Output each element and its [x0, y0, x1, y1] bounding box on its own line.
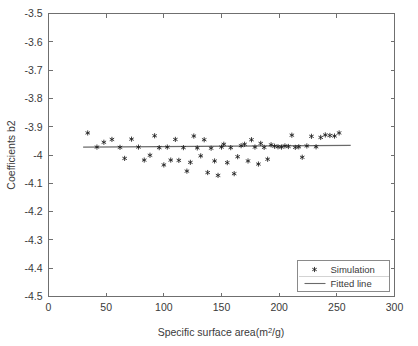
data-point-marker — [162, 163, 166, 167]
data-point-marker — [250, 138, 254, 142]
y-tick-label: -3.7 — [24, 64, 42, 76]
y-tick-label: -4.1 — [24, 177, 42, 189]
y-axis-title: Coefficients b2 — [5, 120, 17, 189]
data-point-marker — [185, 169, 189, 173]
fitted-line — [83, 145, 351, 147]
y-tick-label: -4.5 — [24, 290, 42, 302]
legend: SimulationFitted line — [298, 261, 390, 292]
x-tick-label: 200 — [270, 301, 288, 313]
data-points — [86, 131, 341, 178]
data-point-marker — [236, 155, 240, 159]
data-point-marker — [177, 158, 181, 162]
plot-frame — [49, 14, 395, 297]
data-point-marker — [86, 131, 90, 135]
data-point-marker — [188, 160, 192, 164]
data-point-marker — [199, 154, 203, 158]
data-point-marker — [259, 141, 263, 145]
data-point-marker — [333, 134, 337, 138]
data-point-marker — [123, 156, 127, 160]
x-tick-label: 250 — [328, 301, 346, 313]
data-point-marker — [257, 162, 261, 166]
data-point-marker — [328, 133, 332, 137]
data-point-marker — [206, 170, 210, 174]
data-point-marker — [323, 133, 327, 137]
data-point-marker — [337, 131, 341, 135]
y-tick-label: -4.2 — [24, 205, 42, 217]
data-point-marker — [220, 145, 224, 149]
data-point-marker — [148, 153, 152, 157]
y-tick-label: -3.8 — [24, 92, 42, 104]
data-point-marker — [290, 133, 294, 137]
x-tick-label: 100 — [155, 301, 173, 313]
x-tick-label: 150 — [213, 301, 231, 313]
data-point-marker — [246, 159, 250, 163]
x-axis-title: Specific surface area(m2/g) — [158, 326, 285, 339]
data-point-marker — [232, 171, 236, 175]
data-point-marker — [319, 135, 323, 139]
data-point-marker — [169, 158, 173, 162]
data-point-marker — [102, 140, 106, 144]
y-tick-label: -3.5 — [24, 7, 42, 19]
data-point-marker — [216, 173, 220, 177]
y-tick-label: -4.4 — [24, 262, 42, 274]
data-point-marker — [110, 137, 114, 141]
x-tick-label: 0 — [46, 301, 52, 313]
data-point-marker — [192, 134, 196, 138]
scatter-plot: -4.5-4.4-4.3-4.2-4.1-4-3.9-3.8-3.7-3.6-3… — [0, 0, 418, 346]
data-point-marker — [310, 134, 314, 138]
y-tick-label: -3.9 — [24, 121, 42, 133]
axes-frame — [49, 14, 395, 297]
y-tick-label: -4 — [33, 149, 42, 161]
data-point-marker — [225, 160, 229, 164]
legend-label-fitted-line: Fitted line — [331, 278, 372, 289]
data-point-marker — [142, 158, 146, 162]
x-tick-label: 50 — [100, 301, 112, 313]
y-axis-ticks: -4.5-4.4-4.3-4.2-4.1-4-3.9-3.8-3.7-3.6-3… — [24, 7, 394, 302]
data-point-marker — [213, 159, 217, 163]
data-point-marker — [266, 157, 270, 161]
data-point-marker — [202, 138, 206, 142]
data-point-marker — [153, 134, 157, 138]
x-tick-label: 300 — [386, 301, 404, 313]
data-point-marker — [130, 137, 134, 141]
y-tick-label: -3.6 — [24, 36, 42, 48]
legend-label-simulation: Simulation — [331, 264, 375, 275]
y-tick-label: -4.3 — [24, 234, 42, 246]
data-point-marker — [300, 155, 304, 159]
fitted-line-path — [83, 145, 351, 147]
figure-canvas: -4.5-4.4-4.3-4.2-4.1-4-3.9-3.8-3.7-3.6-3… — [0, 0, 418, 346]
data-point-marker — [173, 137, 177, 141]
